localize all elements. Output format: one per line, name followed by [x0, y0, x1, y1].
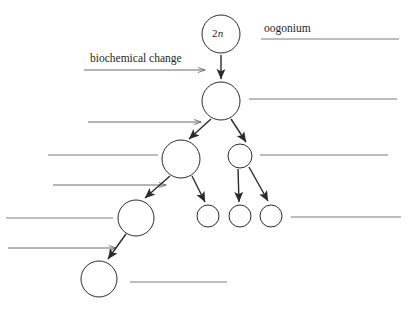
ootid-cell: [118, 200, 154, 236]
arrow-secondary-to-polar-2: [192, 176, 205, 202]
diagram-canvas: [0, 0, 409, 311]
primary-oocyte-cell: [202, 82, 240, 120]
oogenesis-diagram: 2n oogonium biochemical change: [0, 0, 409, 311]
answer-rule-group: [6, 39, 401, 282]
polar-body-small-3: [260, 205, 282, 227]
secondary-oocyte-cell: [162, 140, 200, 178]
ploidy-label-2n: 2n: [212, 27, 223, 39]
polar-body-small-2: [229, 205, 251, 227]
polar-body-small-1: [197, 205, 219, 227]
arrow-ootid-to-ovum: [108, 234, 126, 259]
arrow-first-polar-to-polar-4: [249, 167, 268, 201]
first-polar-body-cell: [228, 144, 252, 168]
arrow-primary-to-first-polar: [231, 119, 246, 142]
arrow-secondary-to-ootid: [145, 176, 170, 198]
arrow-first-polar-to-polar-3: [238, 169, 239, 202]
ploidy-italic-n: n: [218, 27, 224, 39]
ovum-cell: [81, 261, 117, 297]
biochemical-change-label: biochemical change: [90, 52, 182, 64]
oogonium-label: oogonium: [264, 22, 311, 34]
